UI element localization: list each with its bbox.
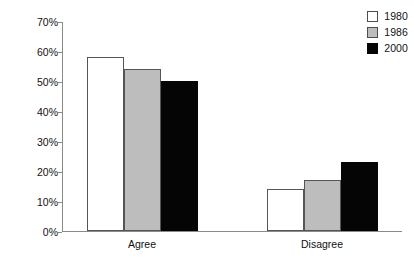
bar-disagree-2000 (341, 162, 378, 231)
y-axis-tick-label: 20% (18, 167, 58, 178)
bar-agree-2000 (161, 81, 198, 231)
legend-label-1980: 1980 (384, 11, 408, 22)
y-axis-tick-mark (58, 202, 62, 203)
bar-agree-1986 (124, 69, 161, 231)
x-axis-line (62, 231, 402, 232)
bar-chart: 1980 1986 2000 0%10%20%30%40%50%60%70% A… (0, 0, 414, 266)
legend-swatch-white-icon (367, 11, 378, 22)
y-axis-tick-mark (58, 232, 62, 233)
y-axis-tick-mark (58, 172, 62, 173)
bar-disagree-1980 (267, 189, 304, 231)
y-axis-tick-mark (58, 22, 62, 23)
y-axis-tick-label: 30% (18, 137, 58, 148)
y-axis-tick-label: 60% (18, 47, 58, 58)
y-axis-tick-label: 70% (18, 17, 58, 28)
y-axis-tick-mark (58, 142, 62, 143)
plot-area: 0%10%20%30%40%50%60%70% (62, 22, 402, 232)
y-axis-tick-label: 40% (18, 107, 58, 118)
y-axis-tick-label: 0% (18, 227, 58, 238)
x-axis-label-disagree: Disagree (301, 238, 343, 250)
y-axis-tick-mark (58, 82, 62, 83)
y-axis-line (62, 22, 63, 232)
y-axis-tick-mark (58, 112, 62, 113)
y-axis-tick-mark (58, 52, 62, 53)
y-axis-tick-label: 10% (18, 197, 58, 208)
bar-agree-1980 (87, 57, 124, 231)
y-axis-tick-label: 50% (18, 77, 58, 88)
bar-disagree-1986 (304, 180, 341, 231)
x-axis-label-agree: Agree (128, 238, 156, 250)
